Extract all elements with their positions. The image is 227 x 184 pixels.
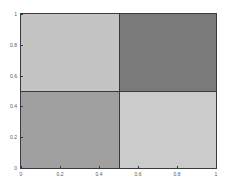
heatmap-cell: [21, 91, 119, 168]
y-tick-label: 0.4: [10, 104, 17, 109]
x-tick-mark: [216, 166, 217, 168]
x-tick-mark: [138, 166, 139, 168]
y-tick-label: 1: [14, 12, 17, 17]
y-tick-mark: [21, 45, 23, 46]
y-tick-label: 0.2: [10, 135, 17, 140]
y-tick-label: 0: [14, 166, 17, 171]
x-tick-label: 1: [215, 172, 218, 177]
heatmap-cell: [119, 14, 217, 91]
x-tick-label: 0.2: [57, 172, 64, 177]
heatmap-cell: [21, 14, 119, 91]
x-tick-mark: [177, 166, 178, 168]
x-tick-label: 0: [20, 172, 23, 177]
x-tick-label: 0.8: [174, 172, 181, 177]
x-tick-label: 0.4: [96, 172, 103, 177]
y-tick-mark: [21, 76, 23, 77]
y-tick-mark: [21, 106, 23, 107]
y-tick-mark: [21, 14, 23, 15]
plot-area: [20, 13, 217, 169]
y-tick-mark: [21, 137, 23, 138]
x-tick-mark: [60, 166, 61, 168]
x-tick-label: 0.6: [135, 172, 142, 177]
y-tick-label: 0.6: [10, 73, 17, 78]
cell-divider-horizontal: [21, 91, 216, 92]
x-tick-mark: [99, 166, 100, 168]
y-tick-label: 0.8: [10, 42, 17, 47]
y-tick-mark: [21, 168, 23, 169]
heatmap-cell: [119, 91, 217, 168]
